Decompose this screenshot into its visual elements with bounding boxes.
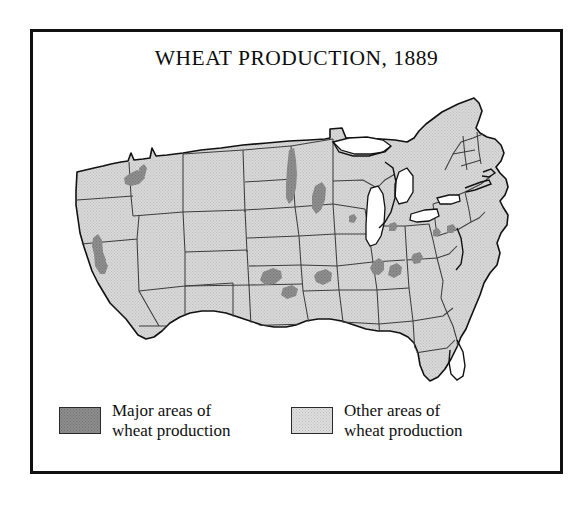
us-outline xyxy=(76,98,508,381)
land-mass xyxy=(76,98,508,381)
legend-swatch-major-icon xyxy=(59,407,101,434)
legend-label-major: Major areas of wheat production xyxy=(112,401,231,440)
united-states-map-svg[interactable] xyxy=(33,76,560,411)
legend-other-line2: wheat production xyxy=(344,421,463,441)
map-canvas[interactable] xyxy=(33,76,560,411)
legend-item-major-areas[interactable]: Major areas of wheat production xyxy=(59,401,231,440)
map-legend: Major areas of wheat production Other ar… xyxy=(33,399,560,457)
page-title: WHEAT PRODUCTION, 1889 xyxy=(33,46,560,71)
legend-item-other-areas[interactable]: Other areas of wheat production xyxy=(291,401,463,440)
legend-other-line1: Other areas of xyxy=(344,401,463,421)
legend-swatch-other-icon xyxy=(291,407,333,434)
legend-major-line2: wheat production xyxy=(112,421,231,441)
legend-label-other: Other areas of wheat production xyxy=(344,401,463,440)
legend-major-line1: Major areas of xyxy=(112,401,231,421)
map-figure: WHEAT PRODUCTION, 1889 xyxy=(30,29,563,474)
